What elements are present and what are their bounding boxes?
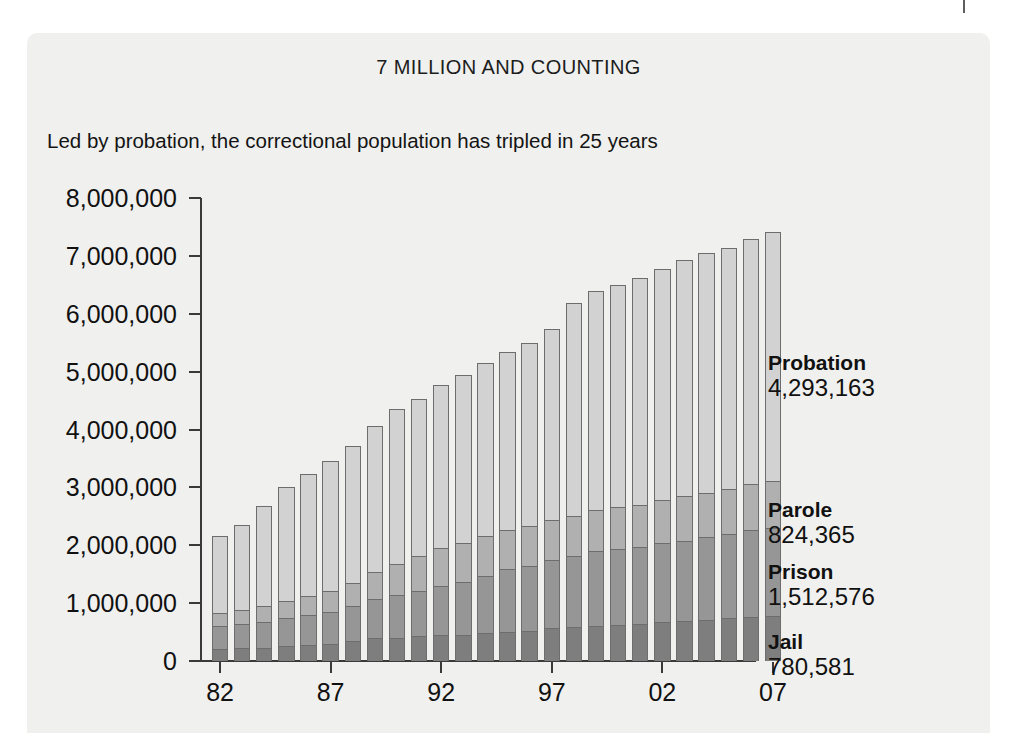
bar-segment-probation bbox=[301, 475, 315, 597]
stacked-bar[interactable] bbox=[544, 329, 560, 661]
bar-segment-prison bbox=[257, 623, 271, 649]
x-axis-tick-label: 87 bbox=[317, 678, 345, 707]
stacked-bar[interactable] bbox=[521, 343, 537, 661]
bar-segment-prison bbox=[213, 627, 227, 650]
x-axis-tick-mark bbox=[551, 662, 553, 673]
bar-segment-parole bbox=[699, 494, 713, 539]
bar-segment-parole bbox=[323, 592, 337, 613]
bar-segment-probation bbox=[323, 462, 337, 592]
stacked-bar[interactable] bbox=[234, 525, 250, 661]
bar-segment-jail bbox=[567, 628, 581, 661]
bar-segment-jail bbox=[301, 646, 315, 661]
stacked-bar[interactable] bbox=[610, 285, 626, 661]
bar-segment-parole bbox=[633, 506, 647, 548]
y-axis-tick-mark bbox=[189, 486, 201, 488]
legend-entry-name: Jail bbox=[768, 630, 855, 654]
x-axis-tick-mark bbox=[661, 662, 663, 673]
stacked-bar[interactable] bbox=[698, 253, 714, 661]
bar-segment-probation bbox=[257, 507, 271, 608]
bar-segment-probation bbox=[611, 286, 625, 507]
stacked-bar[interactable] bbox=[367, 426, 383, 661]
bar-segment-parole bbox=[213, 614, 227, 627]
bar-segment-probation bbox=[633, 279, 647, 507]
bar-segment-probation bbox=[412, 400, 426, 558]
bar-segment-probation bbox=[744, 240, 758, 485]
bar-segment-jail bbox=[412, 637, 426, 661]
bar-segment-jail bbox=[368, 639, 382, 661]
stacked-bar[interactable] bbox=[322, 461, 338, 661]
x-axis-tick-label: 82 bbox=[206, 678, 234, 707]
bar-segment-parole bbox=[279, 602, 293, 619]
x-axis-tick-mark bbox=[440, 662, 442, 673]
stacked-bar[interactable] bbox=[411, 399, 427, 661]
stacked-bar[interactable] bbox=[588, 291, 604, 661]
stacked-bar[interactable] bbox=[389, 409, 405, 661]
stacked-bar[interactable] bbox=[256, 506, 272, 661]
bar-segment-prison bbox=[500, 570, 514, 632]
bar-segment-parole bbox=[301, 597, 315, 616]
bar-segment-parole bbox=[478, 537, 492, 577]
legend-entry-jail[interactable]: Jail780,581 bbox=[768, 630, 855, 680]
page-top-tick-mark bbox=[963, 0, 965, 13]
stacked-bar[interactable] bbox=[632, 278, 648, 661]
y-axis-tick-mark bbox=[189, 371, 201, 373]
bar-segment-jail bbox=[235, 649, 249, 661]
chart-panel: 7 MILLION AND COUNTING Led by probation,… bbox=[27, 33, 990, 733]
bar-segment-jail bbox=[323, 645, 337, 661]
bar-segment-jail bbox=[744, 618, 758, 661]
bar-segment-jail bbox=[655, 623, 669, 661]
bar-segment-probation bbox=[235, 526, 249, 611]
y-axis-tick-mark bbox=[189, 429, 201, 431]
stacked-bar[interactable] bbox=[566, 303, 582, 661]
bar-segment-jail bbox=[722, 619, 736, 661]
stacked-bar[interactable] bbox=[300, 474, 316, 661]
y-axis-tick-mark bbox=[189, 602, 201, 604]
bar-segment-probation bbox=[478, 364, 492, 537]
legend-entry-value: 4,293,163 bbox=[768, 375, 875, 402]
bar-segment-prison bbox=[390, 596, 404, 639]
bar-segment-prison bbox=[434, 587, 448, 636]
bar-segment-parole bbox=[589, 511, 603, 552]
bar-segment-parole bbox=[346, 584, 360, 608]
stacked-bar[interactable] bbox=[654, 269, 670, 661]
stacked-bar[interactable] bbox=[433, 385, 449, 661]
bar-segment-parole bbox=[412, 557, 426, 591]
stacked-bar[interactable] bbox=[455, 375, 471, 661]
legend-entry-parole[interactable]: Parole824,365 bbox=[768, 498, 855, 548]
stacked-bar[interactable] bbox=[212, 536, 228, 661]
legend-entry-prison[interactable]: Prison1,512,576 bbox=[768, 560, 875, 610]
bar-segment-probation bbox=[434, 386, 448, 549]
stacked-bar[interactable] bbox=[278, 487, 294, 661]
stacked-bar[interactable] bbox=[721, 248, 737, 661]
y-axis-tick-mark bbox=[189, 197, 201, 199]
bar-segment-jail bbox=[478, 634, 492, 661]
stacked-bar[interactable] bbox=[743, 239, 759, 661]
bar-segment-parole bbox=[655, 501, 669, 544]
bar-segment-prison bbox=[722, 535, 736, 619]
y-axis-tick-mark bbox=[189, 544, 201, 546]
legend-entry-name: Prison bbox=[768, 560, 875, 584]
legend-entry-value: 824,365 bbox=[768, 522, 855, 549]
bar-segment-jail bbox=[500, 633, 514, 661]
stacked-bar[interactable] bbox=[345, 446, 361, 661]
bar-segment-prison bbox=[368, 600, 382, 639]
y-axis-tick-mark bbox=[189, 660, 201, 662]
bar-segment-prison bbox=[346, 607, 360, 642]
y-axis-tick-mark bbox=[189, 255, 201, 257]
bar-segment-prison bbox=[456, 583, 470, 636]
stacked-bar[interactable] bbox=[477, 363, 493, 661]
bar-segment-parole bbox=[545, 521, 559, 561]
bar-segment-probation bbox=[279, 488, 293, 602]
bar-segment-jail bbox=[545, 629, 559, 661]
legend-entry-probation[interactable]: Probation4,293,163 bbox=[768, 351, 875, 401]
bar-segment-prison bbox=[279, 619, 293, 647]
bar-segment-probation bbox=[500, 353, 514, 531]
chart-page: 7 MILLION AND COUNTING Led by probation,… bbox=[0, 0, 1019, 749]
stacked-bar[interactable] bbox=[499, 352, 515, 661]
bar-segment-jail bbox=[522, 632, 536, 661]
bar-segment-probation bbox=[522, 344, 536, 527]
stacked-bar[interactable] bbox=[676, 260, 692, 661]
legend-entry-name: Probation bbox=[768, 351, 875, 375]
bar-segment-probation bbox=[722, 249, 736, 490]
x-axis-tick-mark bbox=[330, 662, 332, 673]
